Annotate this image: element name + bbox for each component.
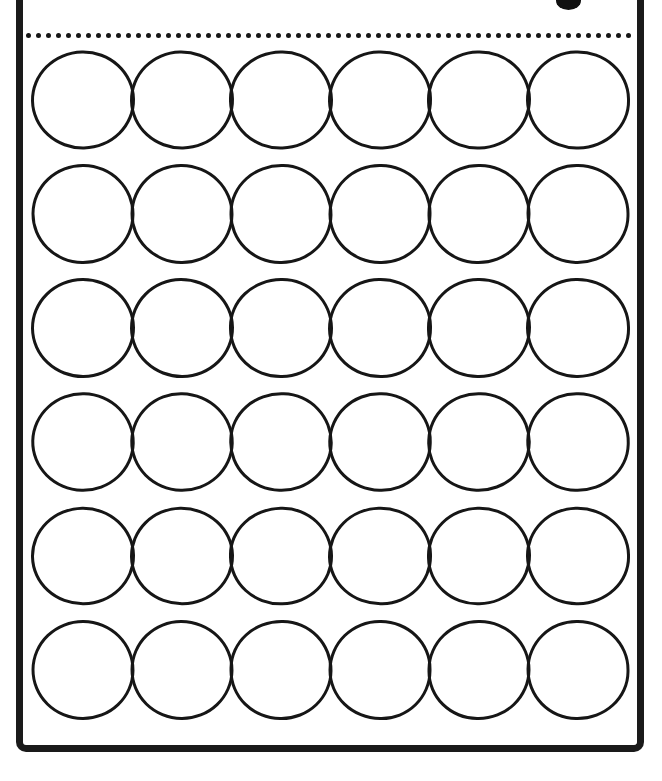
separator-dot — [426, 33, 431, 38]
circle-cell-r3c4[interactable] — [328, 278, 432, 378]
separator-dot — [466, 33, 471, 38]
separator-dot — [266, 33, 271, 38]
circle-grid — [31, 50, 627, 734]
circle-outline-icon — [228, 277, 333, 378]
circle-outline-icon — [129, 391, 235, 493]
separator-dot — [366, 33, 371, 38]
separator-dot — [416, 33, 421, 38]
circle-cell-r2c6[interactable] — [526, 164, 630, 264]
circle-cell-r5c1[interactable] — [31, 506, 135, 606]
worksheet-page — [0, 0, 662, 781]
circle-cell-r6c6[interactable] — [526, 620, 630, 720]
circle-cell-r6c1[interactable] — [31, 620, 135, 720]
circle-outline-icon — [31, 620, 135, 721]
circle-cell-r6c4[interactable] — [328, 620, 432, 720]
dotted-separator — [26, 33, 634, 39]
circle-outline-icon — [228, 49, 334, 150]
circle-cell-r3c2[interactable] — [130, 278, 234, 378]
separator-dot — [256, 33, 261, 38]
separator-dot — [136, 33, 141, 38]
separator-dot — [166, 33, 171, 38]
circle-cell-r5c5[interactable] — [427, 506, 531, 606]
circle-outline-icon — [229, 620, 333, 721]
circle-outline-icon — [129, 506, 235, 606]
circle-row — [31, 278, 627, 392]
separator-dot — [296, 33, 301, 38]
circle-outline-icon — [31, 163, 136, 265]
circle-cell-r2c4[interactable] — [328, 164, 432, 264]
circle-outline-icon — [328, 620, 432, 721]
separator-dot — [236, 33, 241, 38]
circle-cell-r1c3[interactable] — [229, 50, 333, 150]
separator-dot — [96, 33, 101, 38]
separator-dot — [456, 33, 461, 38]
separator-dot — [396, 33, 401, 38]
separator-dot — [206, 33, 211, 38]
circle-cell-r4c5[interactable] — [427, 392, 531, 492]
circle-outline-icon — [229, 163, 334, 265]
circle-cell-r5c2[interactable] — [130, 506, 234, 606]
circle-cell-r4c1[interactable] — [31, 392, 135, 492]
circle-cell-r2c5[interactable] — [427, 164, 531, 264]
circle-cell-r6c5[interactable] — [427, 620, 531, 720]
separator-dot — [106, 33, 111, 38]
circle-cell-r6c2[interactable] — [130, 620, 234, 720]
circle-cell-r1c5[interactable] — [427, 50, 531, 150]
separator-dot — [286, 33, 291, 38]
circle-row — [31, 506, 627, 620]
circle-outline-icon — [426, 277, 531, 378]
circle-outline-icon — [426, 49, 532, 150]
circle-cell-r6c3[interactable] — [229, 620, 333, 720]
circle-cell-r3c5[interactable] — [427, 278, 531, 378]
circle-cell-r2c3[interactable] — [229, 164, 333, 264]
circle-cell-r5c4[interactable] — [328, 506, 432, 606]
separator-dot — [196, 33, 201, 38]
separator-dot — [446, 33, 451, 38]
circle-outline-icon — [426, 391, 532, 493]
circle-cell-r5c3[interactable] — [229, 506, 333, 606]
circle-outline-icon — [30, 277, 135, 378]
separator-dot — [526, 33, 531, 38]
separator-dot — [276, 33, 281, 38]
circle-outline-icon — [30, 391, 136, 493]
separator-dot — [226, 33, 231, 38]
circle-cell-r4c6[interactable] — [526, 392, 630, 492]
circle-cell-r3c6[interactable] — [526, 278, 630, 378]
separator-dot — [626, 33, 631, 38]
separator-dot — [186, 33, 191, 38]
separator-dot — [176, 33, 181, 38]
separator-dot — [56, 33, 61, 38]
circle-cell-r2c2[interactable] — [130, 164, 234, 264]
circle-cell-r1c2[interactable] — [130, 50, 234, 150]
separator-dot — [356, 33, 361, 38]
separator-dot — [116, 33, 121, 38]
separator-dot — [316, 33, 321, 38]
separator-dot — [246, 33, 251, 38]
circle-cell-r1c6[interactable] — [526, 50, 630, 150]
circle-outline-icon — [130, 620, 234, 721]
circle-outline-icon — [328, 163, 433, 265]
circle-cell-r5c6[interactable] — [526, 506, 630, 606]
circle-cell-r2c1[interactable] — [31, 164, 135, 264]
circle-outline-icon — [30, 506, 136, 606]
separator-dot — [496, 33, 501, 38]
circle-cell-r4c4[interactable] — [328, 392, 432, 492]
separator-dot — [516, 33, 521, 38]
circle-cell-r3c3[interactable] — [229, 278, 333, 378]
separator-dot — [66, 33, 71, 38]
circle-outline-icon — [129, 277, 234, 378]
circle-outline-icon — [525, 391, 631, 493]
circle-outline-icon — [228, 391, 334, 493]
circle-outline-icon — [327, 506, 433, 606]
separator-dot — [46, 33, 51, 38]
circle-outline-icon — [525, 277, 630, 378]
circle-cell-r3c1[interactable] — [31, 278, 135, 378]
circle-cell-r4c2[interactable] — [130, 392, 234, 492]
circle-outline-icon — [427, 163, 532, 265]
separator-dot — [536, 33, 541, 38]
circle-cell-r1c4[interactable] — [328, 50, 432, 150]
circle-cell-r1c1[interactable] — [31, 50, 135, 150]
separator-dot — [606, 33, 611, 38]
circle-cell-r4c3[interactable] — [229, 392, 333, 492]
separator-dot — [566, 33, 571, 38]
